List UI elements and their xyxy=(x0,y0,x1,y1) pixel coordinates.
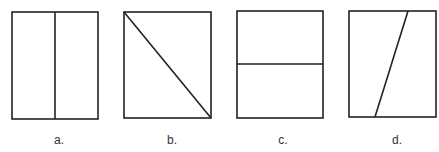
rectangle-a xyxy=(12,12,98,119)
rectangle-d xyxy=(349,11,436,117)
divider-d xyxy=(375,11,408,117)
rectangle-b xyxy=(124,12,211,118)
label-b: b. xyxy=(152,133,192,147)
divider-b xyxy=(124,12,211,118)
label-d: d. xyxy=(377,133,417,147)
label-c: c. xyxy=(263,133,303,147)
figure-diagram xyxy=(0,0,439,152)
rectangle-c xyxy=(237,11,323,118)
label-a: a. xyxy=(39,133,79,147)
